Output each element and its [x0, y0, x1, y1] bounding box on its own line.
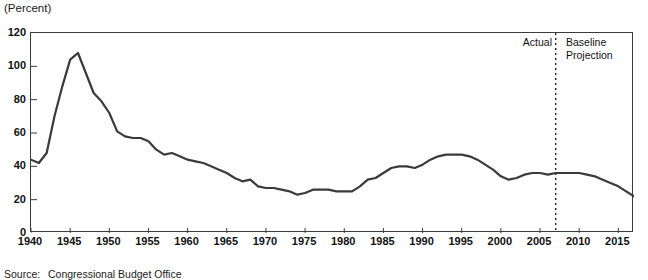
x-tick-label: 2010	[566, 236, 590, 247]
x-tick-label: 1950	[96, 236, 120, 247]
x-tick-label: 2015	[605, 236, 629, 247]
debt-series-line	[31, 53, 634, 196]
x-tick-label: 1990	[409, 236, 433, 247]
x-tick-label: 2005	[527, 236, 551, 247]
x-tick-label: 1940	[18, 236, 42, 247]
y-tick-label: 40	[0, 160, 26, 171]
x-tick-label: 2000	[488, 236, 512, 247]
y-tick-label: 100	[0, 60, 26, 71]
plot-area	[30, 32, 633, 232]
x-tick-label: 1985	[370, 236, 394, 247]
y-tick-marks	[31, 66, 37, 199]
x-tick-marks	[31, 228, 618, 233]
line-chart-svg	[31, 33, 634, 233]
x-tick-label: 1980	[331, 236, 355, 247]
annotation-actual: Actual	[512, 36, 552, 49]
source-text: Congressional Budget Office	[48, 268, 181, 280]
chart-figure: (Percent) 020406080100120 19401945195019…	[0, 0, 648, 280]
x-tick-label: 1995	[448, 236, 472, 247]
x-tick-label: 1975	[292, 236, 316, 247]
source-label: Source:	[4, 268, 48, 280]
y-tick-label: 80	[0, 94, 26, 105]
annotation-baseline-projection: Baseline Projection	[566, 36, 636, 61]
y-tick-label: 120	[0, 27, 26, 38]
unit-label: (Percent)	[4, 0, 51, 16]
x-tick-label: 1955	[135, 236, 159, 247]
y-tick-label: 60	[0, 127, 26, 138]
y-tick-label: 20	[0, 194, 26, 205]
x-tick-label: 1965	[214, 236, 238, 247]
x-tick-label: 1960	[174, 236, 198, 247]
x-tick-label: 1945	[57, 236, 81, 247]
x-tick-label: 1970	[253, 236, 277, 247]
source-note: Source:Congressional Budget Office	[4, 268, 181, 280]
x-axis-labels: 1940194519501955196019651970197519801985…	[0, 236, 648, 256]
